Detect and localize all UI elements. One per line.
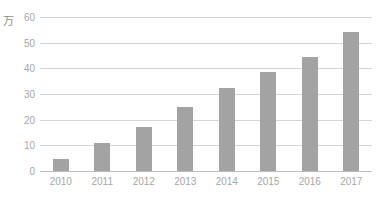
gridline [40,68,372,69]
bar [343,32,359,171]
bar [53,159,69,171]
y-axis-tick-label: 40 [5,64,35,74]
bar-chart: 万 01020304050602010201120122013201420152… [0,0,376,202]
y-axis-tick-label: 50 [5,39,35,49]
y-axis-tick-label: 30 [5,90,35,100]
x-axis-tick-label: 2010 [41,177,81,187]
x-axis-tick-label: 2015 [248,177,288,187]
gridline [40,17,372,18]
x-axis-tick-label: 2017 [331,177,371,187]
bar [94,143,110,171]
x-axis-line [40,171,372,172]
bar [302,57,318,171]
gridline [40,94,372,95]
x-axis-tick-label: 2011 [82,177,122,187]
bar [260,72,276,171]
gridline [40,145,372,146]
plot-area [40,17,372,171]
bar [136,127,152,171]
y-axis-tick-label: 0 [5,167,35,177]
x-axis-tick-label: 2016 [290,177,330,187]
bar [219,88,235,171]
y-axis-tick-label: 10 [5,141,35,151]
gridline [40,120,372,121]
y-axis-tick-label: 60 [5,13,35,23]
gridline [40,43,372,44]
bar [177,107,193,171]
x-axis-tick-label: 2014 [207,177,247,187]
x-axis-tick-label: 2012 [124,177,164,187]
y-axis-tick-label: 20 [5,116,35,126]
x-axis-tick-label: 2013 [165,177,205,187]
